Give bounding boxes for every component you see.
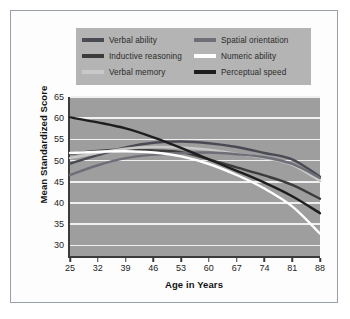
x-axis-label: Age in Years <box>68 279 320 290</box>
x-tick-mark <box>319 258 321 262</box>
legend-item-verbal-memory: Verbal memory <box>82 64 194 80</box>
legend-item-perceptual-speed: Perceptual speed <box>194 64 312 80</box>
series-lines <box>70 97 320 256</box>
x-tick-mark <box>208 258 210 262</box>
legend-label: Perceptual speed <box>221 68 286 77</box>
x-tick-mark <box>125 258 127 262</box>
y-axis-label: Mean Standardized Score <box>38 70 49 220</box>
x-tick-label: 53 <box>166 263 196 273</box>
x-tick-mark <box>69 258 71 262</box>
legend-swatch-icon <box>194 70 216 74</box>
x-tick-label: 39 <box>111 263 141 273</box>
x-tick-label: 25 <box>55 263 85 273</box>
x-tick-label: 67 <box>222 263 252 273</box>
legend-item-numeric-ability: Numeric ability <box>194 48 312 64</box>
legend-swatch-icon <box>194 38 216 42</box>
legend-item-verbal-ability: Verbal ability <box>82 32 194 48</box>
x-tick-mark <box>264 258 266 262</box>
x-tick-label: 74 <box>249 263 279 273</box>
legend-grid: Verbal ability Spatial orientation Induc… <box>82 32 305 80</box>
chart-figure-frame: Verbal ability Spatial orientation Induc… <box>10 10 338 303</box>
legend-label: Spatial orientation <box>221 36 288 45</box>
x-tick-label: 60 <box>194 263 224 273</box>
plot-area <box>68 97 320 258</box>
x-tick-mark <box>97 258 99 262</box>
chart-legend: Verbal ability Spatial orientation Induc… <box>76 28 311 85</box>
x-tick-mark <box>153 258 155 262</box>
x-axis-ticks: 25323946536067748188 <box>68 258 320 276</box>
x-tick-mark <box>236 258 238 262</box>
legend-label: Verbal ability <box>109 36 157 45</box>
x-tick-label: 81 <box>277 263 307 273</box>
x-tick-mark <box>180 258 182 262</box>
legend-swatch-icon <box>82 70 104 74</box>
legend-item-inductive-reasoning: Inductive reasoning <box>82 48 194 64</box>
x-tick-label: 88 <box>305 263 335 273</box>
legend-label: Inductive reasoning <box>109 52 182 61</box>
legend-label: Numeric ability <box>221 52 276 61</box>
x-tick-mark <box>291 258 293 262</box>
y-tick-label: 30 <box>42 240 64 250</box>
y-tick-label: 35 <box>42 219 64 229</box>
legend-label: Verbal memory <box>109 68 165 77</box>
legend-swatch-icon <box>82 38 104 42</box>
x-tick-label: 32 <box>83 263 113 273</box>
x-tick-label: 46 <box>138 263 168 273</box>
legend-swatch-icon <box>82 54 104 58</box>
legend-item-spatial-orientation: Spatial orientation <box>194 32 312 48</box>
legend-swatch-icon <box>194 54 216 58</box>
